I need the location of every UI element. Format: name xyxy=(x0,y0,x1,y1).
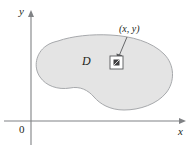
region-d-label: D xyxy=(82,55,91,67)
area-element-marker xyxy=(110,56,123,69)
y-axis-label: y xyxy=(19,6,24,17)
region-d-shape xyxy=(36,35,172,110)
x-axis-label: x xyxy=(178,126,183,137)
region-d-outline xyxy=(36,35,172,110)
figure-canvas xyxy=(0,0,192,149)
sample-point-label: (x, y) xyxy=(119,24,140,34)
x-axis-arrowhead xyxy=(179,118,186,124)
y-axis-arrowhead xyxy=(28,10,34,17)
figure-container: y x 0 D (x, y) xyxy=(0,0,192,149)
origin-label: 0 xyxy=(19,124,25,135)
